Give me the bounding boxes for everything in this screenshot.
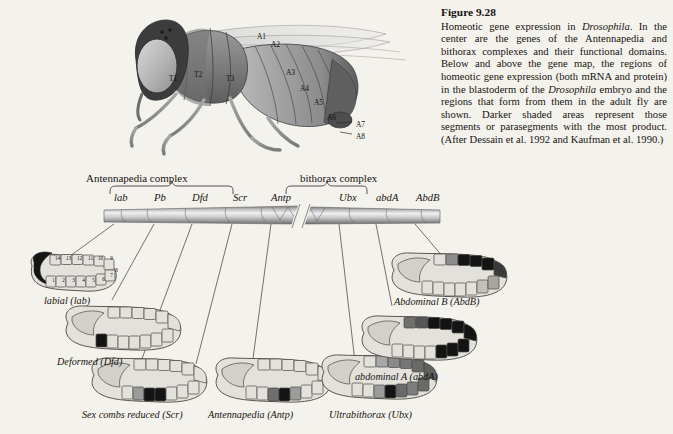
embryo-deformed xyxy=(66,306,181,350)
embryo-abdb xyxy=(392,253,507,297)
labial-segment-number: 8 xyxy=(112,267,121,273)
embryo-label-scr: Sex combs reduced (Scr) xyxy=(82,409,183,420)
embryo-label-ubx: Ultrabithorax (Ubx) xyxy=(329,409,412,420)
embryo-label-abda: abdominal A (abdA) xyxy=(355,371,438,382)
labial-segment-number: 9 xyxy=(107,255,116,261)
labial-segment-number: 10 xyxy=(96,255,105,261)
labial-segment-number: 12 xyxy=(75,255,84,261)
labial-segment-number: 3 xyxy=(69,277,78,283)
embryo-label-antp: Antennapedia (Antp) xyxy=(208,409,293,420)
embryo-antp xyxy=(216,358,331,402)
labial-segment-number: 2 xyxy=(59,277,68,283)
labial-segment-number: 5 xyxy=(89,277,98,283)
labial-segment-number: 13 xyxy=(64,255,73,261)
embryo-label-abdb: Abdominal B (AbdB) xyxy=(394,296,479,307)
labial-segment-number: 11 xyxy=(86,255,95,261)
labial-segment-number: 4 xyxy=(79,277,88,283)
embryo-label-labial: labial (lab) xyxy=(44,295,90,306)
embryo-diagram-group xyxy=(0,0,673,434)
figure-homeotic-gene-expression: Figure 9.28 Homeotic gene expression in … xyxy=(0,0,673,434)
embryo-abda xyxy=(362,316,477,360)
embryo-label-deformed: Deformed (Dfd) xyxy=(57,356,122,367)
labial-segment-number: 1 xyxy=(49,277,58,283)
labial-segment-number: 14 xyxy=(53,255,62,261)
